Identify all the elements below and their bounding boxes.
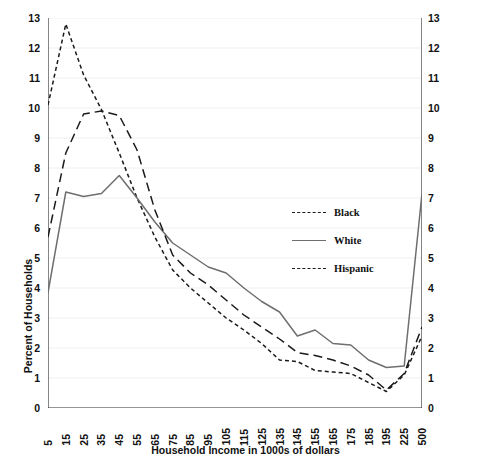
y-tick-label-left-0: 0 bbox=[34, 403, 40, 414]
y-tick-label-left-10: 10 bbox=[28, 103, 40, 114]
y-tick-label-right-2: 2 bbox=[428, 343, 434, 354]
y-tick-label-left-13: 13 bbox=[28, 13, 40, 24]
y-tick-label-right-8: 8 bbox=[428, 163, 434, 174]
y-tick-label-left-7: 7 bbox=[34, 193, 40, 204]
legend-swatch-solid-icon bbox=[292, 240, 326, 241]
legend-item-black: Black bbox=[292, 198, 412, 226]
legend-label-hispanic: Hispanic bbox=[334, 263, 374, 274]
x-axis-title: Household Income in 1000s of dollars bbox=[0, 444, 491, 456]
x-axis-labels: 5152535455565758595105115125135145155165… bbox=[48, 412, 422, 446]
chart-figure: 012345678910111213 012345678910111213 51… bbox=[0, 0, 491, 462]
chart-legend: Black White Hispanic bbox=[292, 198, 412, 282]
y-axis-right-labels: 012345678910111213 bbox=[428, 18, 474, 408]
y-tick-label-right-4: 4 bbox=[428, 283, 434, 294]
y-tick-label-left-3: 3 bbox=[34, 313, 40, 324]
y-tick-label-left-8: 8 bbox=[34, 163, 40, 174]
y-tick-label-right-3: 3 bbox=[428, 313, 434, 324]
y-tick-label-right-9: 9 bbox=[428, 133, 434, 144]
y-tick-label-right-6: 6 bbox=[428, 223, 434, 234]
y-tick-label-right-7: 7 bbox=[428, 193, 434, 204]
y-tick-label-left-11: 11 bbox=[29, 73, 40, 84]
y-tick-label-right-13: 13 bbox=[428, 13, 440, 24]
y-tick-label-left-2: 2 bbox=[34, 343, 40, 354]
y-tick-label-right-10: 10 bbox=[428, 103, 440, 114]
legend-label-white: White bbox=[334, 235, 361, 246]
y-tick-label-left-4: 4 bbox=[34, 283, 40, 294]
y-tick-label-left-1: 1 bbox=[34, 373, 40, 384]
y-tick-label-right-12: 12 bbox=[428, 43, 440, 54]
y-tick-label-right-11: 11 bbox=[428, 73, 439, 84]
legend-label-black: Black bbox=[334, 207, 360, 218]
legend-swatch-dashed-icon bbox=[292, 212, 326, 213]
y-tick-label-right-5: 5 bbox=[428, 253, 434, 264]
legend-item-white: White bbox=[292, 226, 412, 254]
legend-item-hispanic: Hispanic bbox=[292, 254, 412, 282]
y-tick-label-left-9: 9 bbox=[34, 133, 40, 144]
y-axis-title-wrap: Percent of Households bbox=[12, 120, 32, 280]
y-tick-label-left-6: 6 bbox=[34, 223, 40, 234]
y-tick-label-right-0: 0 bbox=[428, 403, 434, 414]
legend-swatch-longdash-icon bbox=[292, 268, 326, 269]
y-tick-label-left-12: 12 bbox=[28, 43, 40, 54]
y-tick-label-left-5: 5 bbox=[34, 253, 40, 264]
y-tick-label-right-1: 1 bbox=[428, 373, 434, 384]
y-axis-title: Percent of Households bbox=[22, 236, 34, 396]
